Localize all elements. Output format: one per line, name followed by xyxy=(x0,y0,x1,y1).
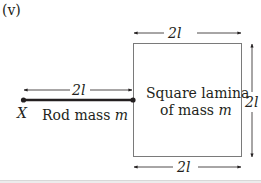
point-x-label: X xyxy=(17,106,27,120)
rod-end-point-x xyxy=(21,97,26,102)
lamina-caption-line1: Square lamina xyxy=(146,86,249,100)
bottom-dimension-label: 2l xyxy=(177,160,190,174)
bottom-divider xyxy=(0,180,261,183)
rod-length-label: 2l xyxy=(72,83,85,97)
rod-joint-point xyxy=(130,97,135,102)
top-dimension-label: 2l xyxy=(168,26,181,40)
lamina-caption-line2: of mass m xyxy=(160,103,232,117)
part-label: (v) xyxy=(2,3,21,17)
rod-caption: Rod mass m xyxy=(42,108,128,122)
